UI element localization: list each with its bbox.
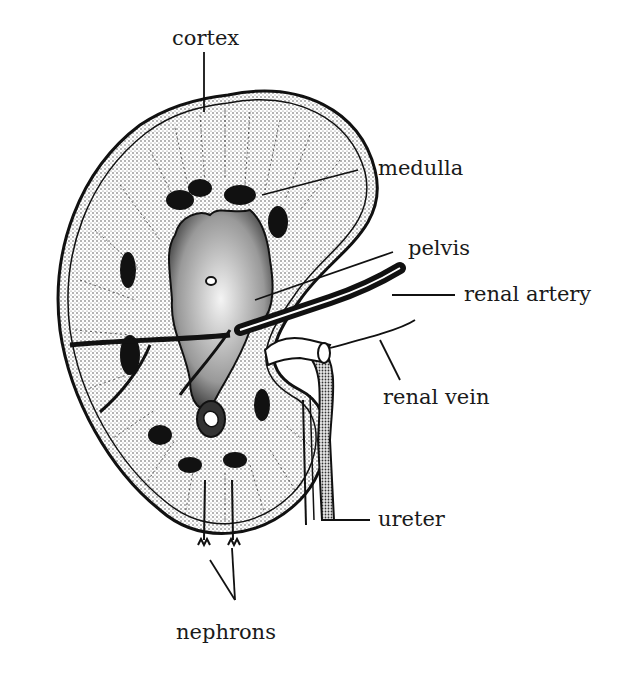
label-renal-vein: renal vein	[383, 387, 489, 408]
renal-vein-leader-1	[330, 320, 415, 348]
renal-vein-leader-2	[380, 340, 400, 380]
label-renal-artery: renal artery	[464, 284, 591, 305]
label-nephrons: nephrons	[176, 622, 276, 643]
label-cortex: cortex	[172, 28, 239, 49]
kidney-diagram: cortex medulla pelvis renal artery renal…	[0, 0, 628, 689]
nephron-leader-2	[232, 548, 235, 600]
label-medulla: medulla	[378, 158, 463, 179]
kidney-illustration	[0, 0, 628, 689]
label-pelvis: pelvis	[408, 238, 470, 259]
renal-vein	[265, 338, 330, 365]
label-ureter: ureter	[378, 509, 445, 530]
nephron-leader-1	[210, 560, 235, 600]
